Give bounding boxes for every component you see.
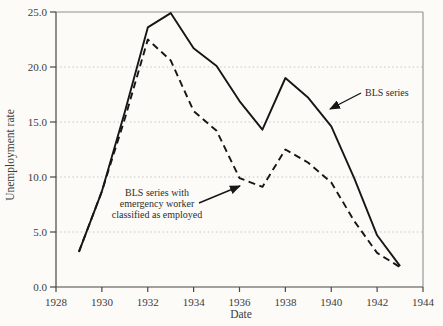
x-tick-label-1944: 1944 bbox=[412, 296, 435, 308]
unemployment-comparison-figure: 0.05.010.015.020.025.0192819301932193419… bbox=[0, 0, 443, 326]
annotation-adjusted-series-line3: classified as employed bbox=[112, 209, 203, 220]
annotation-adjusted-series: BLS series with emergency worker classif… bbox=[112, 186, 240, 220]
y-tick-label-5.0: 5.0 bbox=[33, 226, 47, 238]
x-tick-label-1936: 1936 bbox=[229, 296, 252, 308]
plot-area: 0.05.010.015.020.025.0192819301932193419… bbox=[28, 6, 435, 308]
x-tick-label-1928: 1928 bbox=[45, 296, 68, 308]
x-tick-label-1934: 1934 bbox=[183, 296, 206, 308]
annotation-adjusted-series-arrow bbox=[199, 186, 240, 203]
annotation-bls-series: BLS series bbox=[330, 87, 409, 109]
bls-series-line bbox=[79, 13, 400, 266]
y-tick-label-10.0: 10.0 bbox=[28, 171, 48, 183]
annotation-bls-series-arrow bbox=[330, 93, 361, 109]
annotation-bls-series-label: BLS series bbox=[365, 87, 409, 98]
adjusted-series-line bbox=[79, 40, 400, 268]
y-axis-title: Unemployment rate bbox=[4, 109, 17, 201]
x-tick-label-1942: 1942 bbox=[366, 296, 388, 308]
y-tick-label-15.0: 15.0 bbox=[28, 116, 48, 128]
annotation-adjusted-series-line1: BLS series with bbox=[125, 187, 189, 198]
y-tick-label-0.0: 0.0 bbox=[33, 281, 47, 293]
annotation-adjusted-series-line2: emergency worker bbox=[120, 198, 195, 209]
x-axis-title: Date bbox=[230, 308, 252, 320]
y-tick-label-25.0: 25.0 bbox=[28, 6, 48, 18]
x-tick-label-1932: 1932 bbox=[137, 296, 159, 308]
x-tick-label-1930: 1930 bbox=[91, 296, 114, 308]
y-tick-label-20.0: 20.0 bbox=[28, 61, 48, 73]
unemployment-rate-chart: 0.05.010.015.020.025.0192819301932193419… bbox=[0, 0, 443, 326]
x-tick-label-1940: 1940 bbox=[320, 296, 343, 308]
x-tick-label-1938: 1938 bbox=[274, 296, 297, 308]
